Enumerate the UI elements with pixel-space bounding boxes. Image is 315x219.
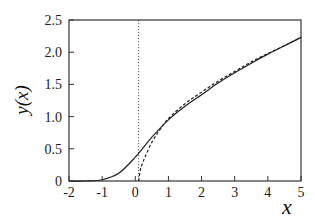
x-tick-label: 0 (132, 185, 139, 200)
y-tick-label: 0.5 (45, 142, 63, 157)
y-axis-label: y(x) (11, 85, 33, 117)
y-tick-label: 2.5 (45, 13, 63, 28)
plot-frame (69, 20, 301, 181)
series-dashed-line (139, 37, 301, 181)
y-tick-label: 1.5 (45, 77, 63, 92)
x-tick-label: 4 (264, 185, 271, 200)
x-tick-label: 2 (198, 185, 205, 200)
x-tick-label: 5 (298, 185, 305, 200)
x-axis-label: x (281, 194, 292, 219)
x-tick-label: 3 (231, 185, 238, 200)
plot-border (69, 20, 301, 181)
x-axis-ticks: -2-1012345 (63, 176, 304, 200)
y-tick-label: 2.0 (45, 45, 63, 60)
x-tick-label: -1 (96, 185, 108, 200)
y-tick-label: 0 (55, 174, 62, 189)
x-tick-label: 1 (165, 185, 172, 200)
y-tick-label: 1.0 (45, 110, 63, 125)
line-chart: -2-1012345 00.51.01.52.02.5 x y(x) (0, 0, 315, 219)
series-solid-line (69, 37, 301, 181)
series-group (69, 37, 301, 181)
x-tick-label: -2 (63, 185, 75, 200)
